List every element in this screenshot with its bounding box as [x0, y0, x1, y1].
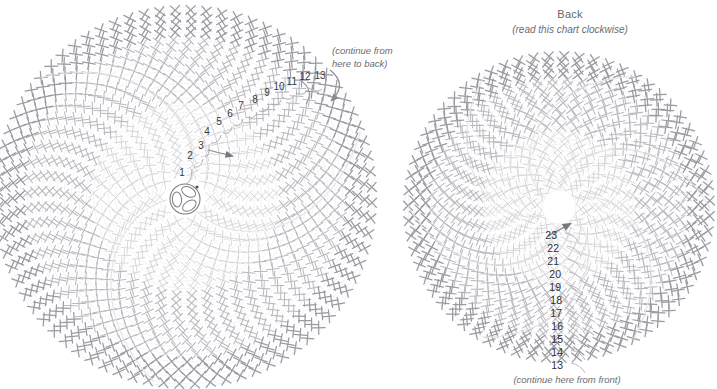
front-round-10: 10 [273, 81, 284, 92]
front-round-4: 4 [204, 126, 210, 137]
back-round-20: 20 [549, 268, 561, 280]
front-chart-magic-ring [170, 184, 200, 214]
back-round-21: 21 [547, 255, 559, 267]
front-round-6: 6 [227, 108, 233, 119]
front-chart-continue-note: (continue from here to back) [332, 44, 442, 70]
back-round-23: 23 [545, 229, 557, 241]
front-round-1: 1 [179, 167, 185, 178]
front-round-8: 8 [252, 94, 258, 105]
front-round-2: 2 [187, 150, 193, 161]
crochet-chart-page: Back (read this chart clockwise) (contin… [0, 0, 717, 389]
back-round-22: 22 [547, 242, 559, 254]
back-round-13: 13 [551, 359, 563, 371]
front-round-3: 3 [198, 140, 204, 151]
back-round-18: 18 [550, 294, 562, 306]
back-chart-subtitle: (read this chart clockwise) [470, 24, 670, 35]
back-chart-continue-note: (continue here from front) [487, 374, 647, 385]
front-round-12: 12 [299, 71, 310, 82]
front-round-13: 13 [314, 70, 325, 81]
front-round-7: 7 [238, 100, 244, 111]
front-note-line-2: here to back) [332, 58, 387, 69]
back-round-17: 17 [550, 307, 562, 319]
front-note-line-1: (continue from [332, 45, 393, 56]
back-round-14: 14 [551, 346, 563, 358]
front-round-9: 9 [264, 87, 270, 98]
back-round-15: 15 [551, 333, 563, 345]
front-round-11: 11 [287, 76, 297, 87]
back-round-19: 19 [549, 281, 561, 293]
back-round-16: 16 [551, 320, 563, 332]
back-chart-title: Back [490, 8, 650, 20]
front-round-5: 5 [216, 116, 222, 127]
